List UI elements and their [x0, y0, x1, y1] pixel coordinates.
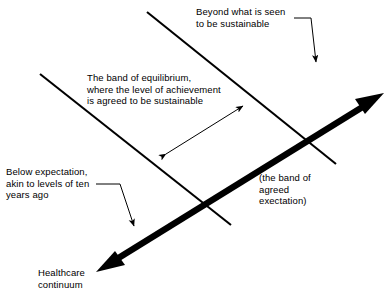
band-width-double-arrow — [166, 106, 243, 154]
label-healthcare-continuum: Healthcare continuum — [38, 267, 85, 290]
diagram-vector-layer — [0, 0, 392, 298]
thick-continuum-arrow — [96, 93, 384, 272]
label-band-of-equilibrium: The band of equilibrium, where the level… — [87, 72, 221, 107]
label-beyond-sustainable: Beyond what is seen to be sustainable — [196, 6, 285, 29]
below-expectation-leader-arrow — [96, 184, 134, 226]
label-below-expectation: Below expectation, akin to levels of ten… — [6, 166, 89, 201]
label-band-of-agreed-expectation: (the band of agreed exectation) — [259, 172, 311, 207]
beyond-sustainable-leader-arrow — [294, 18, 316, 62]
diagram-canvas: Beyond what is seen to be sustainable Th… — [0, 0, 392, 298]
